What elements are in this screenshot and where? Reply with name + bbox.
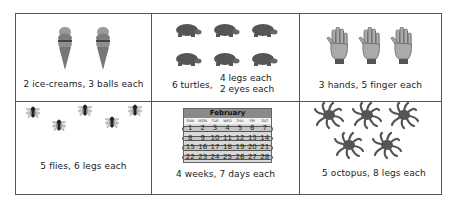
octopus-group <box>300 102 443 164</box>
caption-turtles-eyes: 2 eyes each <box>220 84 274 94</box>
fly-icon <box>26 107 40 119</box>
octopus-icon <box>353 103 381 128</box>
cell-ice-creams: 2 ice-creams, 3 balls each <box>16 14 152 102</box>
octopus-icon <box>390 103 418 128</box>
caption-turtles-legs: 4 legs each <box>220 73 272 83</box>
ice-cream-icon <box>57 26 73 70</box>
fly-icon <box>128 105 142 117</box>
hand-icon <box>390 27 416 65</box>
caption-ice-creams: 2 ice-creams, 3 balls each <box>16 79 151 89</box>
fly-icon <box>78 105 92 117</box>
turtle-icon <box>174 22 202 38</box>
turtle-icon <box>250 22 278 38</box>
cell-weeks: February SUNMONTUEWEDTHUFRISAT 1234567 8… <box>152 102 300 194</box>
caption-flies: 5 flies, 6 legs each <box>16 161 151 171</box>
hand-icon <box>326 27 352 65</box>
turtle-icon <box>212 22 240 38</box>
cell-hands: 3 hands, 5 finger each <box>300 14 441 102</box>
octopus-icon <box>315 103 343 128</box>
turtle-icon <box>212 51 240 67</box>
fly-icon <box>105 117 119 129</box>
turtle-icon <box>174 51 202 67</box>
calendar-month: February <box>184 109 271 118</box>
worksheet-grid: 2 ice-creams, 3 balls each 6 turtles, 4 … <box>15 13 442 195</box>
caption-weeks: 4 weeks, 7 days each <box>152 169 299 179</box>
hand-icon <box>358 27 384 65</box>
flies-group <box>16 102 152 162</box>
caption-turtles-count: 6 turtles, <box>172 80 213 90</box>
fly-icon <box>52 120 66 132</box>
calendar-week-row: 15161718192021 <box>184 143 271 153</box>
calendar-week-row: 22232425262728 <box>184 153 271 163</box>
octopus-icon <box>373 133 401 158</box>
calendar-week-row: 1234567 <box>184 124 271 134</box>
caption-octopus: 5 octopus, 8 legs each <box>322 168 441 178</box>
calendar-icon: February SUNMONTUEWEDTHUFRISAT 1234567 8… <box>183 108 272 163</box>
turtle-icon <box>250 51 278 67</box>
octopus-icon <box>335 133 363 158</box>
cell-flies: 5 flies, 6 legs each <box>16 102 152 194</box>
cell-turtles: 6 turtles, 4 legs each 2 eyes each <box>152 14 300 102</box>
cell-octopus: 5 octopus, 8 legs each <box>300 102 441 194</box>
calendar-week-row: 891011121314 <box>184 134 271 144</box>
caption-hands: 3 hands, 5 finger each <box>300 80 441 90</box>
ice-cream-icon <box>95 26 111 70</box>
